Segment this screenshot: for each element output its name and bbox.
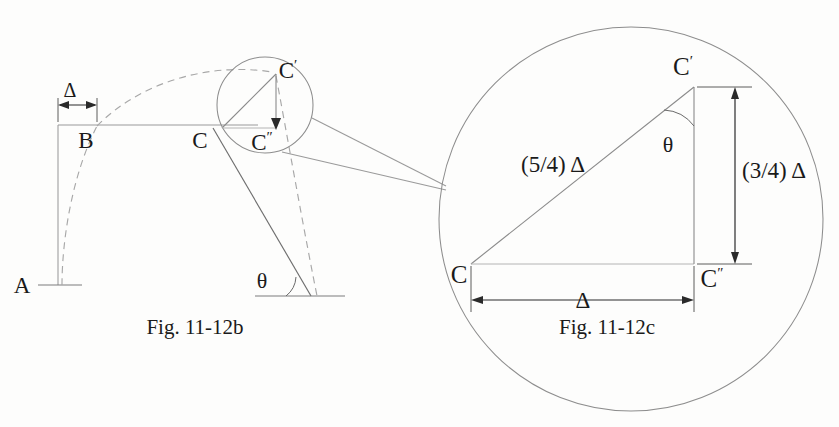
hdim-arrow-left	[471, 296, 483, 304]
detail-circle-large	[439, 27, 823, 411]
theta-label-fig-c: θ	[663, 132, 674, 157]
deformed-inclined-member	[276, 76, 317, 296]
leader-line-lower	[282, 152, 446, 190]
detail-hypotenuse-small	[222, 74, 276, 128]
point-label-c-prime-fig-c: C′	[673, 53, 693, 80]
point-label-c-fig-c: C	[451, 261, 468, 288]
point-label-c-fig-b: C	[192, 128, 207, 153]
caption-fig-c: Fig. 11-12c	[559, 315, 655, 339]
hdim-arrow-right	[682, 296, 694, 304]
figure-canvas: Δ A B C θ C″ C′	[0, 0, 839, 427]
angle-arc-theta-fig-c	[664, 110, 694, 126]
fig-b-group: Δ A B C θ C″ C′	[14, 57, 345, 339]
delta-arrow-left-fig-b	[58, 101, 69, 109]
point-label-b: B	[78, 128, 93, 153]
vdim-arrow-top	[731, 87, 739, 99]
deformed-beam-bc	[97, 69, 272, 126]
caption-fig-b: Fig. 11-12b	[146, 315, 243, 339]
theta-label-fig-b: θ	[257, 268, 268, 293]
point-label-c-double-prime-fig-c: C″	[701, 265, 724, 292]
fig-c-group: θ (5/4) Δ (3/4) Δ Δ C C′	[439, 27, 823, 411]
angle-arc-theta-fig-b	[286, 277, 296, 296]
leader-line-upper	[312, 118, 446, 186]
vertical-dim-label: (3/4) Δ	[742, 158, 806, 183]
delta-label-fig-b: Δ	[64, 79, 77, 101]
point-label-a: A	[14, 273, 31, 298]
delta-arrow-right-fig-b	[86, 101, 97, 109]
horizontal-dim-label: Δ	[576, 288, 591, 313]
point-label-c-double-prime-fig-b: C″	[251, 129, 273, 155]
engineering-diagram-svg: Δ A B C θ C″ C′	[0, 0, 839, 427]
vdim-arrow-bottom	[731, 252, 739, 264]
point-label-c-prime-fig-b: C′	[279, 57, 298, 83]
hypotenuse-label: (5/4) Δ	[521, 152, 585, 177]
